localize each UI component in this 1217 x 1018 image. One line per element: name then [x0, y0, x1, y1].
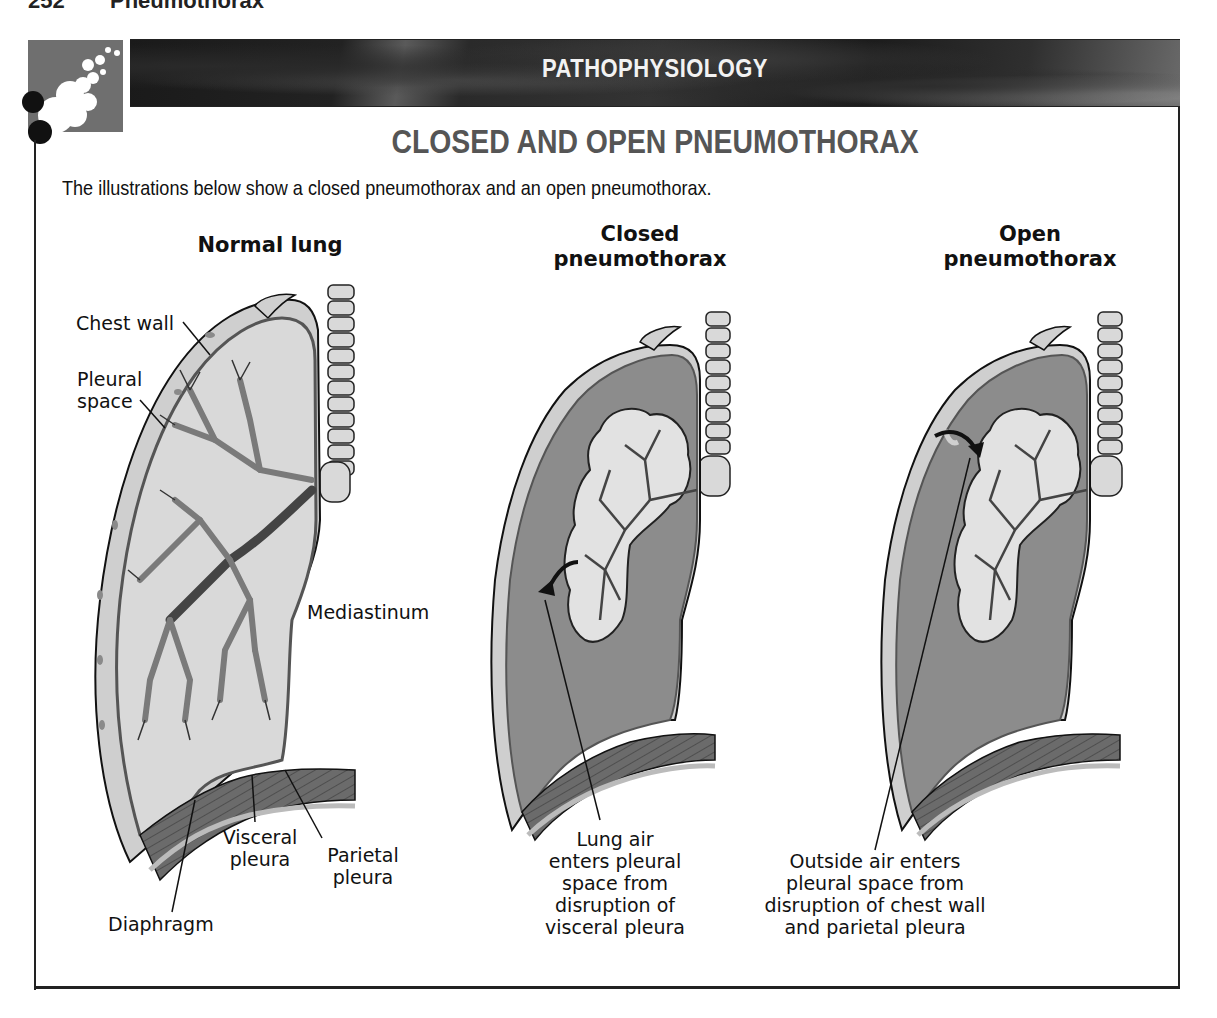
closed-pneumothorax-drawing [491, 312, 730, 840]
open-pneumothorax-drawing [875, 312, 1122, 850]
caption-open: Outside air enters pleural space from di… [730, 850, 1020, 938]
label-mediastinum: Mediastinum [307, 601, 429, 623]
caption-line: disruption of [520, 894, 710, 916]
label-visceral-pleura: Visceral pleura [215, 826, 305, 870]
spine-icon [320, 285, 354, 502]
caption-closed: Lung air enters pleural space from disru… [520, 828, 710, 938]
caption-line: and parietal pleura [730, 916, 1020, 938]
label-chest-wall: Chest wall [76, 312, 174, 334]
label-line: pleura [215, 848, 305, 870]
label-pleural-space: Pleural space [77, 368, 142, 412]
label-diaphragm: Diaphragm [108, 913, 214, 935]
caption-line: Outside air enters [730, 850, 1020, 872]
label-line: Visceral [215, 826, 305, 848]
caption-line: visceral pleura [520, 916, 710, 938]
caption-line: enters pleural [520, 850, 710, 872]
label-parietal-pleura: Parietal pleura [318, 844, 408, 888]
label-line: pleura [318, 866, 408, 888]
caption-line: Lung air [520, 828, 710, 850]
label-line: space [77, 390, 142, 412]
caption-line: pleural space from [730, 872, 1020, 894]
label-line: Parietal [318, 844, 408, 866]
caption-line: space from [520, 872, 710, 894]
caption-line: disruption of chest wall [730, 894, 1020, 916]
label-line: Pleural [77, 368, 142, 390]
